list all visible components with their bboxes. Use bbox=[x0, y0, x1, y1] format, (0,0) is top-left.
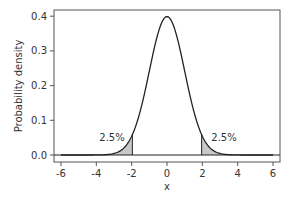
y-tick-label: 0.1 bbox=[31, 115, 47, 126]
x-tick-label: -2 bbox=[127, 168, 137, 179]
y-tick-label: 0.0 bbox=[31, 150, 47, 161]
x-axis: -6-4-20246 bbox=[56, 162, 276, 179]
y-axis: 0.00.10.20.30.4 bbox=[31, 11, 54, 161]
left-tail-label: 2.5% bbox=[99, 132, 124, 143]
x-tick-label: 4 bbox=[234, 168, 240, 179]
right-tail-label: 2.5% bbox=[211, 132, 236, 143]
x-tick-label: 6 bbox=[270, 168, 276, 179]
density-curve bbox=[61, 17, 273, 155]
chart: 0.00.10.20.30.4 -6-4-20246 2.5% 2.5% x P… bbox=[0, 0, 297, 199]
y-tick-label: 0.2 bbox=[31, 80, 47, 91]
x-tick-label: 0 bbox=[164, 168, 170, 179]
x-tick-label: -6 bbox=[56, 168, 66, 179]
plot-area bbox=[54, 10, 280, 162]
y-tick-label: 0.4 bbox=[31, 11, 47, 22]
y-tick-label: 0.3 bbox=[31, 45, 47, 56]
x-tick-label: 2 bbox=[199, 168, 205, 179]
x-tick-label: -4 bbox=[91, 168, 101, 179]
y-axis-label: Probability density bbox=[13, 40, 24, 133]
x-axis-label: x bbox=[164, 181, 170, 192]
